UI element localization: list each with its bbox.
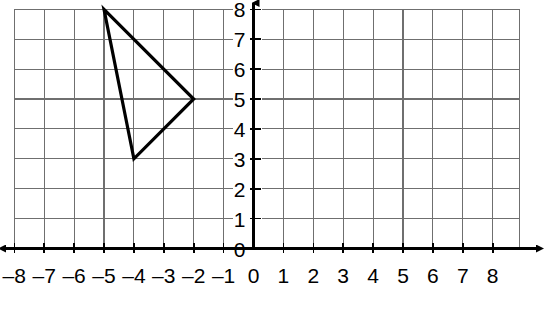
x-tick-label: 0 [248,264,260,287]
x-tick-label: –2 [182,264,205,287]
x-tick-label: –3 [152,264,175,287]
x-tick-label: 8 [487,264,499,287]
x-tick-label: 1 [278,264,290,287]
x-tick-label: –1 [212,264,235,287]
grid-layer [14,9,519,248]
x-tick-label: 5 [397,264,409,287]
y-tick-label: 6 [234,58,246,81]
y-tick-label: 4 [234,118,246,141]
x-tick-label: 2 [307,264,319,287]
x-tick-label: 6 [427,264,439,287]
axis-layer [6,3,538,249]
x-tick-label: 7 [457,264,469,287]
y-tick-label: 7 [234,28,246,51]
y-tick-label: 2 [234,178,246,201]
coordinate-plane-svg: –8–7–6–5–4–3–2–1012345678012345678 [0,0,547,309]
x-tick-label: –4 [122,264,146,287]
x-tick-label: –7 [33,264,56,287]
y-tick-label: 3 [234,148,246,171]
y-tick-label: 5 [234,88,246,111]
axis-label-layer: –8–7–6–5–4–3–2–1012345678012345678 [3,0,499,287]
x-tick-label: –5 [92,264,115,287]
y-tick-label: 0 [234,238,246,261]
shape-triangle [104,9,194,159]
coordinate-graph: –8–7–6–5–4–3–2–1012345678012345678 [0,0,547,309]
x-tick-label: –6 [62,264,85,287]
plotted-shape-layer [104,9,194,159]
x-tick-label: –8 [3,264,26,287]
x-tick-label: 3 [337,264,349,287]
y-tick-label: 8 [234,0,246,21]
y-tick-label: 1 [234,208,246,231]
x-tick-label: 4 [367,264,379,287]
